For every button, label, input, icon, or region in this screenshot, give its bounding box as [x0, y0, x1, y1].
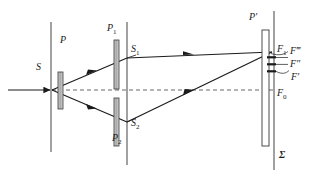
- fringe-mark-f-prime: [267, 70, 276, 72]
- label-polarizer-p: P: [60, 35, 66, 45]
- label-fringe-f-double-prime: F″: [290, 59, 300, 69]
- polarizer-plate-p: [58, 72, 63, 109]
- diagram-canvas: [0, 0, 320, 179]
- label-slit-s2: S2: [131, 118, 140, 131]
- label-fringe-f-triple-prime: F‴: [290, 46, 300, 56]
- label-polarizer-p2: P2: [112, 133, 122, 146]
- label-analyzer-p-prime: P′: [249, 12, 257, 22]
- label-fringe-f1: F1: [277, 44, 287, 57]
- fringe-mark-f-triple-prime: [267, 56, 276, 58]
- ray-s2-to-f1-arrowhead: [183, 89, 194, 95]
- polarizer-plate-p1: [114, 40, 119, 89]
- label-fringe-f0: F0: [277, 88, 287, 101]
- ray-s2-to-f1: [127, 52, 272, 122]
- label-slit-s1: S1: [131, 44, 140, 57]
- ray-s-to-s1-arrowhead: [86, 70, 97, 75]
- ray-s1-to-f1-arrowhead: [183, 51, 194, 55]
- analyzer-plate-p-prime: [262, 30, 269, 146]
- label-polarizer-p1: P1: [107, 23, 117, 36]
- ray-s1-to-f1: [127, 52, 272, 58]
- leader-line-f-prime: [276, 71, 289, 74]
- ray-s-to-s2-arrowhead: [86, 104, 97, 110]
- label-screen-sigma: Σ: [279, 150, 285, 160]
- optics-ray-diagram: S P P1 P2 S1 S2 P′ F1 F‴ F″ F′ F0 Σ: [0, 0, 320, 179]
- label-fringe-f-prime: F′: [291, 72, 299, 82]
- fringe-mark-f-double-prime: [267, 63, 276, 65]
- label-source-s: S: [36, 62, 41, 72]
